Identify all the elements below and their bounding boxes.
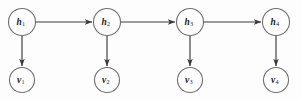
visible-node-v3[interactable]: v3 bbox=[178, 68, 203, 93]
hidden-node-h1[interactable]: h1 bbox=[9, 9, 36, 36]
visible-node-v1[interactable]: v1 bbox=[10, 68, 35, 93]
hidden-node-h3[interactable]: h3 bbox=[177, 9, 204, 36]
hidden-node-h2[interactable]: h2 bbox=[94, 9, 121, 36]
emission-edges-group bbox=[22, 36, 276, 66]
hidden-node-h4[interactable]: h4 bbox=[263, 9, 290, 36]
graph-canvas: h1h2h3h4 v1v2v3v4 bbox=[0, 0, 301, 99]
visible-node-v4[interactable]: v4 bbox=[264, 68, 289, 93]
visible-node-v2[interactable]: v2 bbox=[95, 68, 120, 93]
visible-nodes-group: v1v2v3v4 bbox=[10, 68, 289, 93]
graphical-model-diagram: h1h2h3h4 v1v2v3v4 bbox=[0, 0, 301, 99]
